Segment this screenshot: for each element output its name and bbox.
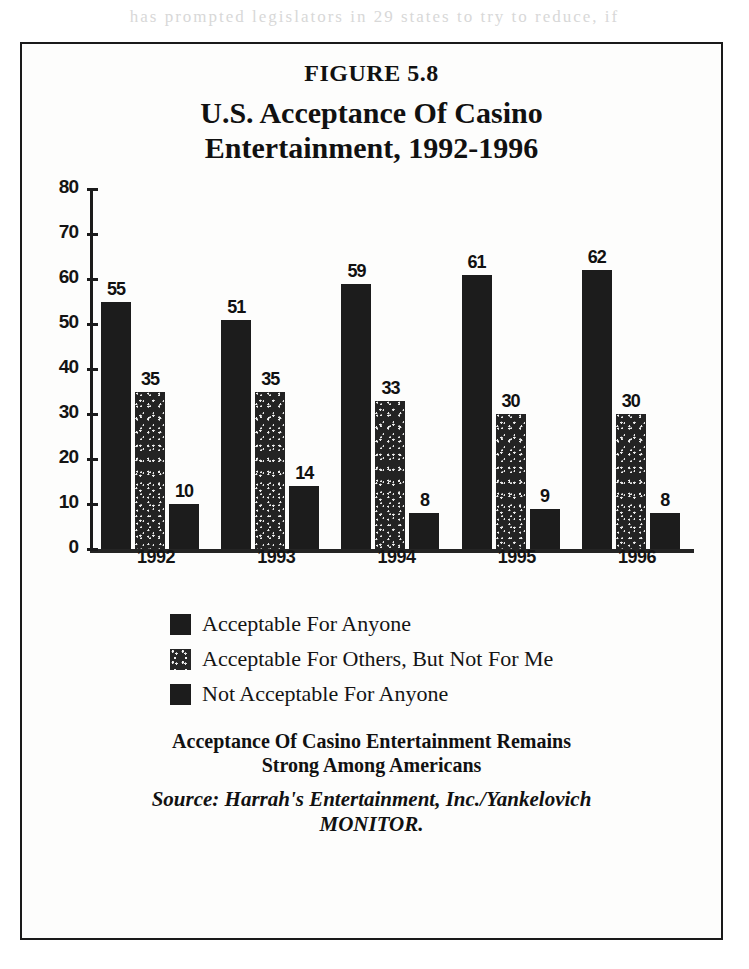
bar-value-label: 9 bbox=[540, 486, 549, 507]
y-axis-tick-label: 50 bbox=[59, 312, 78, 334]
legend-swatch-icon bbox=[170, 614, 191, 635]
bar: 30 bbox=[616, 414, 646, 549]
bar: 8 bbox=[409, 513, 439, 549]
bar-group: 513514 bbox=[213, 189, 333, 549]
bar-value-label: 61 bbox=[468, 252, 486, 273]
bar: 8 bbox=[650, 513, 680, 549]
bar-group: 59338 bbox=[333, 189, 453, 549]
bar: 35 bbox=[255, 392, 285, 550]
x-axis-label: 1992 bbox=[93, 547, 213, 568]
bar-groups: 553510513514593386130962308 bbox=[93, 189, 694, 549]
figure-source: Source: Harrah's Entertainment, Inc./Yan… bbox=[22, 787, 721, 837]
figure-title: U.S. Acceptance Of Casino Entertainment,… bbox=[22, 95, 721, 165]
chart-legend: Acceptable For AnyoneAcceptable For Othe… bbox=[22, 611, 721, 707]
bar-value-label: 59 bbox=[347, 261, 365, 282]
y-axis-tick-label: 30 bbox=[59, 402, 78, 424]
x-axis-label: 1994 bbox=[333, 547, 453, 568]
bar-value-label: 35 bbox=[261, 369, 279, 390]
bar-value-label: 62 bbox=[588, 247, 606, 268]
figure-box: FIGURE 5.8 U.S. Acceptance Of Casino Ent… bbox=[20, 42, 723, 940]
x-axis-labels: 19921993199419951996 bbox=[93, 547, 694, 568]
figure-label: FIGURE 5.8 bbox=[22, 60, 721, 87]
bar: 61 bbox=[462, 275, 492, 550]
bar-group: 62308 bbox=[574, 189, 694, 549]
legend-item: Not Acceptable For Anyone bbox=[170, 681, 721, 707]
bar-value-label: 55 bbox=[107, 279, 125, 300]
bar-value-label: 30 bbox=[502, 391, 520, 412]
legend-swatch-icon bbox=[170, 684, 191, 705]
bar: 55 bbox=[101, 302, 131, 550]
legend-label: Acceptable For Anyone bbox=[202, 611, 411, 637]
bar-group: 553510 bbox=[93, 189, 213, 549]
bar: 59 bbox=[341, 284, 371, 550]
figure-caption: Acceptance Of Casino Entertainment Remai… bbox=[22, 729, 721, 777]
bar: 30 bbox=[496, 414, 526, 549]
source-line-1: Source: Harrah's Entertainment, Inc./Yan… bbox=[74, 787, 669, 812]
bar-group: 61309 bbox=[454, 189, 574, 549]
y-axis-tick-label: 60 bbox=[59, 267, 78, 289]
bar-value-label: 8 bbox=[660, 490, 669, 511]
bar-value-label: 8 bbox=[420, 490, 429, 511]
bar: 33 bbox=[375, 401, 405, 550]
y-axis-tick-label: 10 bbox=[59, 492, 78, 514]
bar: 51 bbox=[221, 320, 251, 550]
bar: 9 bbox=[530, 509, 560, 550]
legend-label: Not Acceptable For Anyone bbox=[202, 681, 448, 707]
figure-title-line-1: U.S. Acceptance Of Casino bbox=[62, 95, 681, 130]
legend-item: Acceptable For Anyone bbox=[170, 611, 721, 637]
y-axis-tick-label: 40 bbox=[59, 357, 78, 379]
legend-item: Acceptable For Others, But Not For Me bbox=[170, 646, 721, 672]
legend-swatch-icon bbox=[170, 649, 191, 670]
y-axis-tick-label: 70 bbox=[59, 222, 78, 244]
bar-value-label: 10 bbox=[175, 481, 193, 502]
x-axis-label: 1993 bbox=[213, 547, 333, 568]
y-axis-tick-label: 80 bbox=[59, 177, 78, 199]
bar: 35 bbox=[135, 392, 165, 550]
bar-chart: 01020304050607080 5535105135145933861309… bbox=[22, 179, 721, 599]
bar: 62 bbox=[582, 270, 612, 549]
bar-value-label: 30 bbox=[622, 391, 640, 412]
source-line-2: MONITOR. bbox=[74, 812, 669, 837]
x-axis-label: 1995 bbox=[454, 547, 574, 568]
bar: 14 bbox=[289, 486, 319, 549]
page-bleed-text: has prompted legislators in 29 states to… bbox=[0, 0, 749, 40]
bar-value-label: 14 bbox=[295, 463, 313, 484]
caption-line-2: Strong Among Americans bbox=[77, 753, 666, 777]
x-axis-label: 1996 bbox=[574, 547, 694, 568]
legend-label: Acceptable For Others, But Not For Me bbox=[202, 646, 553, 672]
plot-area: 01020304050607080 5535105135145933861309… bbox=[90, 189, 690, 549]
y-axis-tick-label: 0 bbox=[68, 537, 78, 559]
bar-value-label: 35 bbox=[141, 369, 159, 390]
y-axis-tick-label: 20 bbox=[59, 447, 78, 469]
bar: 10 bbox=[169, 504, 199, 549]
bar-value-label: 33 bbox=[381, 378, 399, 399]
figure-title-line-2: Entertainment, 1992-1996 bbox=[62, 130, 681, 165]
bar-value-label: 51 bbox=[227, 297, 245, 318]
caption-line-1: Acceptance Of Casino Entertainment Remai… bbox=[77, 729, 666, 753]
